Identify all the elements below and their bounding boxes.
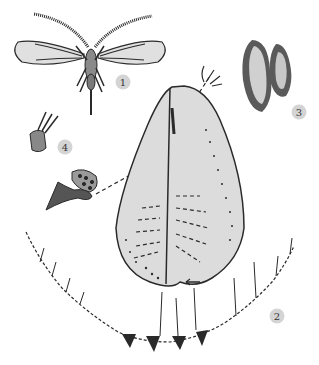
figure-label-4: 4	[62, 142, 68, 153]
illustration-plate: 1 3 4	[0, 0, 319, 365]
figure-label-3: 3	[296, 107, 302, 118]
pupal-case-figure	[116, 86, 244, 286]
vasiform-orifice-figure	[46, 170, 97, 210]
figure-label-1: 1	[120, 77, 126, 88]
marginal-seta-figure	[30, 112, 58, 152]
figure-label-2: 2	[274, 311, 280, 322]
adult-insect-figure	[15, 14, 165, 115]
waxy-pupae-figure	[242, 40, 291, 112]
